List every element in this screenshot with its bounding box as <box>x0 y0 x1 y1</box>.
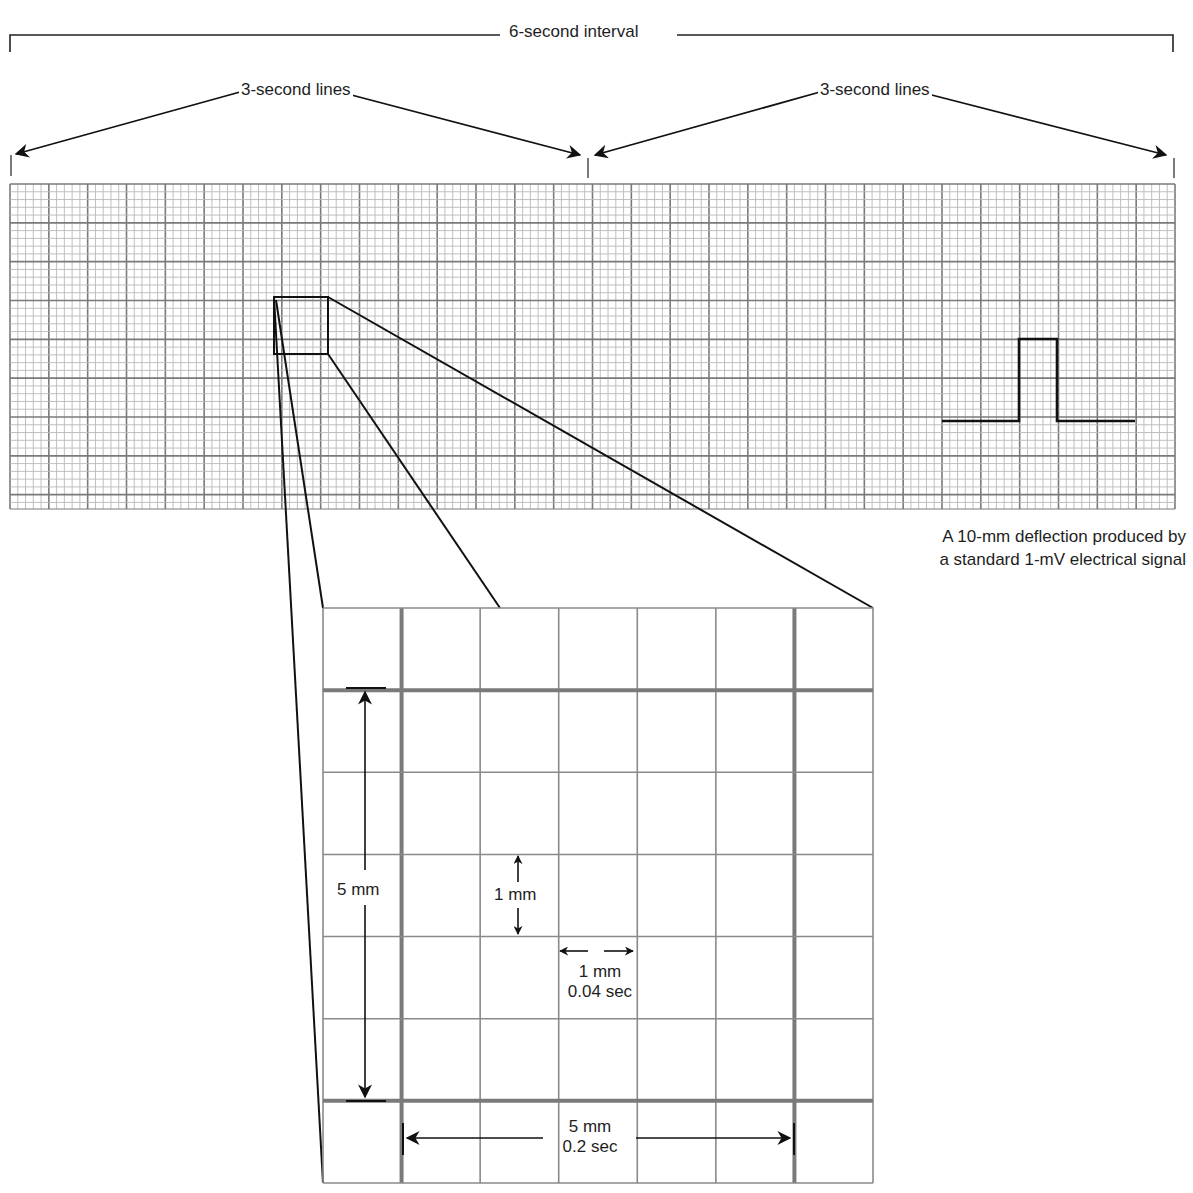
calibration-caption-line2: a standard 1-mV electrical signal <box>880 550 1186 570</box>
zoom-indicator <box>274 297 873 1183</box>
inset-1mm-value: 1 mm <box>558 962 642 982</box>
calibration-caption: A 10-mm deflection produced by a standar… <box>880 527 1186 570</box>
inset-5mm-vertical-label: 5 mm <box>337 878 380 902</box>
ecg-strip-grid <box>10 184 1175 509</box>
enlarged-grid <box>323 608 873 1183</box>
six-second-interval-label: 6-second interval <box>505 22 642 42</box>
inset-1mm-vertical-label: 1 mm <box>494 885 537 905</box>
calibration-pulse <box>942 339 1135 421</box>
inset-1mm-horizontal-label: 1 mm 0.04 sec <box>558 962 642 1002</box>
inset-0.04sec-value: 0.04 sec <box>558 982 642 1002</box>
three-second-arrows <box>16 92 1166 155</box>
inset-dimension-arrows <box>346 688 794 1155</box>
calibration-caption-line1: A 10-mm deflection produced by <box>880 527 1186 547</box>
three-second-tick-marks <box>11 155 1174 178</box>
inset-5mm-horizontal-label: 5 mm 0.2 sec <box>548 1117 632 1157</box>
three-second-lines-label-left: 3-second lines <box>239 80 353 100</box>
three-second-lines-label-right: 3-second lines <box>818 80 932 100</box>
inset-5mm-value: 5 mm <box>548 1117 632 1137</box>
inset-0.2sec-value: 0.2 sec <box>548 1137 632 1157</box>
ecg-diagram <box>0 0 1193 1193</box>
